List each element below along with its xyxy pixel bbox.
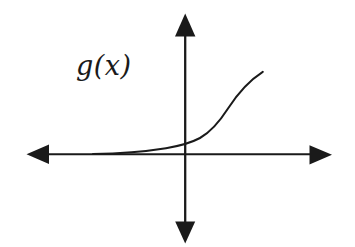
- graph-figure: g(x): [0, 0, 355, 247]
- y-axis-down-arrow-icon: [175, 222, 195, 244]
- y-axis-up-arrow-icon: [175, 14, 195, 37]
- coordinate-plane-svg: [0, 0, 355, 247]
- x-axis-right-arrow-icon: [310, 145, 333, 164]
- x-axis-left-arrow-icon: [27, 145, 50, 164]
- exponential-curve: [93, 72, 263, 154]
- function-label: g(x): [76, 52, 132, 79]
